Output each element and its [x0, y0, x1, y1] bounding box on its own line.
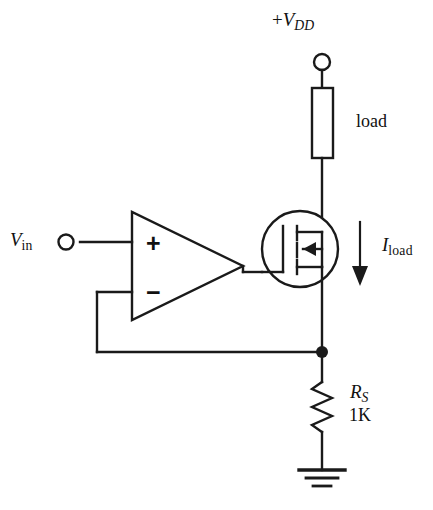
sense-resistor-value: 1K: [349, 406, 371, 424]
supply-label-symbol: V: [283, 9, 295, 30]
sense-resistor-label: RS: [350, 382, 368, 405]
mosfet-envelope-circle: [262, 211, 338, 287]
sense-resistor-symbol: R: [350, 381, 362, 402]
sense-resistor-subscript: S: [362, 390, 369, 405]
supply-terminal-circle: [314, 54, 330, 70]
load-resistor-body: [312, 88, 333, 158]
schematic-canvas: [0, 0, 433, 510]
sense-resistor-zigzag: [312, 382, 332, 432]
input-terminal-circle: [59, 235, 74, 250]
input-label-subscript: in: [22, 238, 33, 253]
opamp-inverting-sign: −: [146, 280, 161, 305]
opamp-noninverting-sign: +: [146, 231, 161, 256]
load-current-subscript: load: [388, 243, 412, 258]
input-label-symbol: V: [10, 229, 22, 250]
load-current-label: Iload: [382, 235, 413, 258]
input-label: Vin: [10, 230, 33, 253]
load-label: load: [356, 112, 387, 130]
supply-label: +VDD: [272, 10, 314, 33]
supply-label-subscript: DD: [294, 18, 314, 33]
load-current-arrow-head: [352, 266, 368, 286]
circuit-diagram-figure: +VDD load Iload Vin RS 1K + −: [0, 0, 433, 510]
supply-label-sign: +: [272, 9, 283, 30]
